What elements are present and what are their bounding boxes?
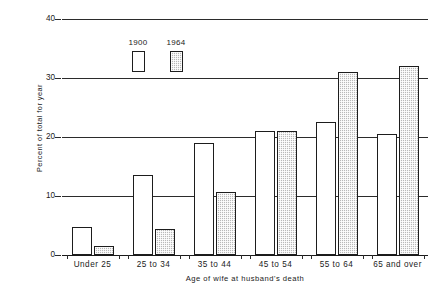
bar-1900-under-25 <box>72 227 92 255</box>
chart-legend: 19001964 <box>122 38 196 72</box>
bar-1900-25-to-34 <box>133 175 153 255</box>
legend-swatch-1964 <box>170 51 183 72</box>
x-tick-label-45-to-54: 45 to 54 <box>259 260 293 269</box>
y-tick-mark-10 <box>55 196 61 197</box>
y-tick-mark-40 <box>55 19 61 20</box>
x-tick-mark <box>311 255 312 259</box>
bar-1964-35-to-44 <box>216 192 236 255</box>
bar-1900-55-to-64 <box>316 122 336 255</box>
x-tick-label-under-25: Under 25 <box>74 260 112 269</box>
bar-group <box>255 19 297 255</box>
gridline-40 <box>62 19 428 20</box>
y-tick-mark-20 <box>55 137 61 138</box>
x-axis-title: Age of wife at husband's death <box>62 274 428 283</box>
bar-1900-65-and-over <box>377 134 397 255</box>
bar-1964-55-to-64 <box>338 72 358 255</box>
bar-chart-figure: Percent of total for year 010203040Under… <box>0 0 448 297</box>
legend-entry-1900: 1900 <box>122 38 154 72</box>
x-tick-mark <box>189 255 190 259</box>
y-tick-label-0: 0 <box>50 251 55 259</box>
x-tick-mark <box>302 255 303 259</box>
gridline-0 <box>62 255 428 256</box>
bar-group <box>72 19 114 255</box>
x-tick-mark <box>119 255 120 259</box>
y-tick-label-40: 40 <box>46 15 55 23</box>
x-tick-mark <box>180 255 181 259</box>
bar-1900-35-to-44 <box>194 143 214 255</box>
y-tick-mark-0 <box>55 255 61 256</box>
bar-1964-25-to-34 <box>155 229 175 255</box>
bar-group <box>194 19 236 255</box>
bar-1964-under-25 <box>94 246 114 255</box>
legend-entry-1964: 1964 <box>160 38 192 72</box>
x-tick-mark <box>250 255 251 259</box>
y-axis-title: Percent of total for year <box>30 8 50 248</box>
x-tick-mark <box>241 255 242 259</box>
y-tick-label-10: 10 <box>46 192 55 200</box>
y-tick-mark-30 <box>55 78 61 79</box>
plot-area: 010203040Under 2525 to 3435 to 4445 to 5… <box>62 19 428 255</box>
x-tick-mark <box>424 255 425 259</box>
y-tick-label-20: 20 <box>46 133 55 141</box>
x-tick-label-55-to-64: 55 to 64 <box>320 260 354 269</box>
bar-1964-45-to-54 <box>277 131 297 255</box>
x-tick-mark <box>363 255 364 259</box>
x-tick-label-65-and-over: 65 and over <box>373 260 422 269</box>
gridline-30 <box>62 78 428 79</box>
legend-swatch-1900 <box>132 51 145 72</box>
bar-1900-45-to-54 <box>255 131 275 255</box>
y-tick-label-30: 30 <box>46 74 55 82</box>
legend-label-1900: 1900 <box>122 38 154 48</box>
bar-group <box>377 19 419 255</box>
bar-group <box>316 19 358 255</box>
gridline-10 <box>62 196 428 197</box>
bar-1964-65-and-over <box>399 66 419 255</box>
legend-label-1964: 1964 <box>160 38 192 48</box>
x-tick-label-35-to-44: 35 to 44 <box>198 260 232 269</box>
x-tick-mark <box>372 255 373 259</box>
gridline-20 <box>62 137 428 138</box>
x-tick-mark <box>67 255 68 259</box>
x-tick-mark <box>128 255 129 259</box>
x-tick-label-25-to-34: 25 to 34 <box>137 260 171 269</box>
